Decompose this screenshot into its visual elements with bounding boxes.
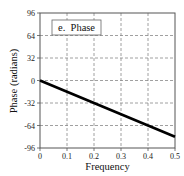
y-tick-label: -64	[24, 122, 35, 131]
y-tick-label: 0	[31, 77, 35, 86]
y-tick-label: -32	[24, 99, 35, 108]
phase-chart: 9664320-32-64-96 00.10.20.30.40.5 e. Pha…	[0, 0, 184, 176]
legend: e. Phase	[52, 20, 101, 35]
x-tick-label: 0.5	[170, 152, 180, 161]
y-tick-label: 64	[27, 32, 35, 41]
legend-label: e. Phase	[58, 22, 95, 33]
phase-series-line	[40, 81, 175, 137]
y-tick-label: 32	[27, 54, 35, 63]
x-axis-ticks: 00.10.20.30.40.5	[38, 148, 180, 161]
x-tick-label: 0	[38, 152, 42, 161]
x-tick-label: 0.2	[89, 152, 99, 161]
y-tick-label: -96	[24, 144, 35, 153]
x-tick-label: 0.1	[62, 152, 72, 161]
x-tick-label: 0.3	[116, 152, 126, 161]
y-tick-label: 96	[27, 9, 35, 18]
x-axis-title: Frequency	[85, 161, 130, 172]
y-axis-ticks: 9664320-32-64-96	[24, 9, 40, 153]
x-tick-label: 0.4	[143, 152, 153, 161]
y-axis-title: Phase (radians)	[8, 48, 20, 113]
